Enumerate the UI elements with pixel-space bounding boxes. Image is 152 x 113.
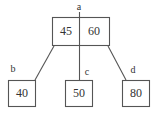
node-label-a: a [77,1,82,12]
edge-root-to-d [108,46,126,80]
node-b-key-0: 40 [16,86,28,100]
edge-root-to-b [35,46,54,80]
node-a-key-1: 60 [88,24,100,38]
node-b: b 40 [9,63,36,106]
node-a-key-0: 45 [60,24,72,38]
node-label-b: b [11,63,16,74]
node-label-d: d [131,64,136,75]
node-d-key-0: 80 [130,86,142,100]
node-c-key-0: 50 [73,86,85,100]
tree-svg-canvas: a 45 60 b 40 c 50 d [0,0,152,113]
b-tree-diagram: a 45 60 b 40 c 50 d [0,0,152,113]
node-label-c: c [85,66,90,77]
node-a: 45 60 [53,18,110,46]
node-d: d 80 [123,64,150,106]
